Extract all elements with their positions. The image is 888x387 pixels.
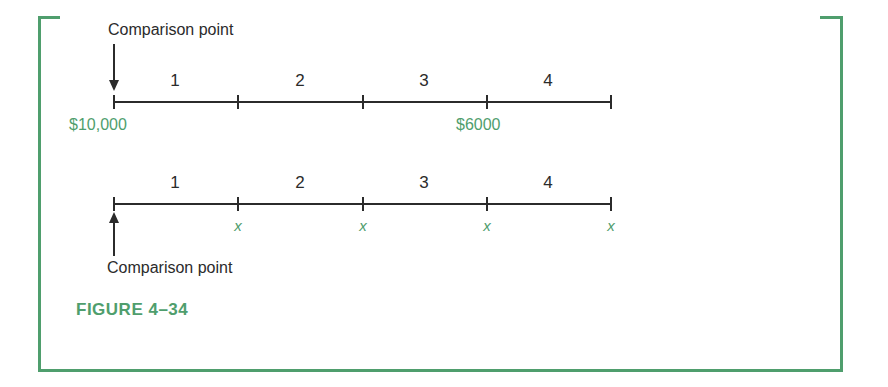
tick-bottom-1 [237,197,239,211]
tick-bottom-0 [113,197,115,211]
arrow-shaft-top [113,44,115,81]
comparison-point-label-bottom: Comparison point [107,258,232,278]
tick-top-0 [113,95,115,109]
segment-label-top-2: 2 [280,71,320,91]
tick-top-1 [237,95,239,109]
x-marker-1: x [226,217,250,235]
tick-bottom-3 [486,197,488,211]
segment-label-bottom-4: 4 [528,173,568,193]
value-label-6000: $6000 [456,115,501,135]
arrow-head-down-icon [109,80,119,91]
segment-label-bottom-2: 2 [280,173,320,193]
segment-label-top-1: 1 [155,71,195,91]
segment-label-top-3: 3 [404,71,444,91]
segment-label-top-4: 4 [528,71,568,91]
arrow-shaft-bottom [113,222,115,256]
tick-top-2 [362,95,364,109]
value-label-10000: $10,000 [69,115,127,135]
segment-label-bottom-3: 3 [404,173,444,193]
tick-bottom-2 [362,197,364,211]
x-marker-4: x [599,217,623,235]
tick-bottom-4 [610,197,612,211]
comparison-point-label-top: Comparison point [108,20,233,40]
x-marker-3: x [475,217,499,235]
x-marker-2: x [351,217,375,235]
tick-top-4 [610,95,612,109]
tick-top-3 [486,95,488,109]
figure-caption: FIGURE 4–34 [76,300,188,320]
segment-label-bottom-1: 1 [155,173,195,193]
figure-container: 1 2 3 4 $10,000 $6000 Comparison point 1… [0,0,888,387]
